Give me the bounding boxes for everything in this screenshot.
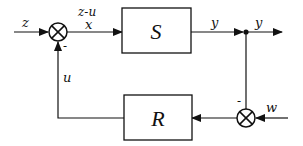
minus-sign-bottom: - — [237, 94, 241, 108]
label-y-right: y — [254, 15, 263, 30]
label-x: x — [85, 17, 93, 32]
label-u: u — [63, 70, 71, 85]
summing-junction-bottom — [237, 109, 255, 127]
minus-sign-top: - — [63, 39, 67, 53]
label-z: z — [21, 15, 29, 30]
label-w: w — [266, 100, 277, 115]
block-R-label: R — [150, 106, 165, 131]
block-S-label: S — [151, 19, 162, 44]
block-diagram: z - z-u x S y y - w R u — [0, 0, 303, 146]
label-y-left: y — [210, 15, 219, 30]
